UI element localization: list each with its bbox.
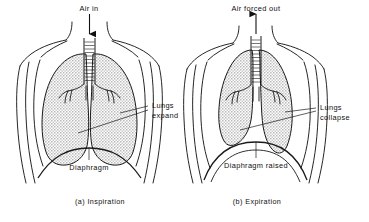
panel-b-air-label: Air forced out (232, 4, 281, 13)
panel-b-diaphragm-label: Diaphragm raised (224, 161, 288, 170)
panel-a-air-label: Air in (80, 4, 99, 13)
panel-b-lung-label-line1: Lungs (320, 103, 342, 112)
panel-b-caption: (b) Expiration (233, 197, 281, 206)
panel-a-caption: (a) Inspiration (75, 197, 125, 206)
panel-b-lung-label-line2: collapse (320, 113, 350, 122)
breathing-mechanism-figure: Lungs expand Diaphragm Air in (a) Inspir… (0, 0, 369, 222)
panel-a-lung-label-line1: Lungs (152, 101, 174, 110)
panel-a-lung-label-line2: expand (152, 111, 178, 120)
panel-a-diaphragm-label: Diaphragm (69, 163, 108, 172)
